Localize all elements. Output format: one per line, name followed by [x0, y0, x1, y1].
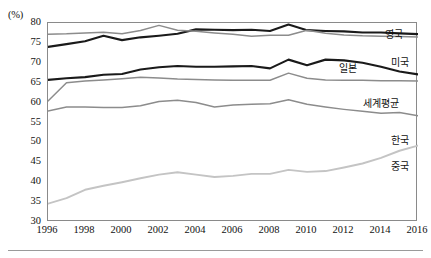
y-axis-tick-label: 35 — [31, 196, 42, 207]
plot-area — [47, 22, 417, 221]
series-label-usa: 미국 — [391, 58, 409, 68]
x-axis-tick-label: 2014 — [370, 225, 391, 236]
x-axis-tick-label: 2016 — [407, 225, 428, 236]
y-axis-unit-label: (%) — [8, 9, 23, 20]
x-axis-tick-label: 2002 — [148, 225, 169, 236]
y-axis-tick-label: 80 — [31, 17, 42, 28]
series-label-china: 중국 — [391, 162, 409, 172]
x-axis-tick-label: 2006 — [222, 225, 243, 236]
series-label-korea: 한국 — [391, 136, 409, 146]
x-axis-tick-label: 2012 — [333, 225, 354, 236]
x-axis-tick-label: 2004 — [185, 225, 206, 236]
x-axis-tick-label: 1998 — [74, 225, 95, 236]
y-axis: 3035404550556065707580 — [0, 22, 45, 221]
y-axis-tick-label: 75 — [31, 37, 42, 48]
employment-rate-line-chart: (%) 3035404550556065707580 1996199820002… — [0, 0, 431, 258]
x-axis-tick-label: 2010 — [296, 225, 317, 236]
y-axis-tick-label: 50 — [31, 136, 42, 147]
x-axis-tick-label: 2008 — [259, 225, 280, 236]
bottom-divider — [8, 250, 423, 251]
y-axis-tick-label: 65 — [31, 76, 42, 87]
series-line — [48, 60, 418, 80]
y-axis-tick-label: 40 — [31, 176, 42, 187]
x-axis-tick-label: 2000 — [111, 225, 132, 236]
series-line — [48, 73, 418, 101]
x-axis-tick-label: 1996 — [37, 225, 58, 236]
plot-svg — [48, 23, 418, 222]
y-axis-tick-label: 70 — [31, 57, 42, 68]
y-axis-tick-label: 45 — [31, 156, 42, 167]
x-axis: 1996199820002002200420062008201020122014… — [47, 225, 417, 243]
y-axis-tick-label: 60 — [31, 96, 42, 107]
series-label-world: 세계평균 — [363, 99, 399, 109]
series-label-uk: 영국 — [385, 30, 403, 40]
series-line — [48, 146, 418, 204]
y-axis-tick-label: 55 — [31, 116, 42, 127]
series-label-japan: 일본 — [339, 64, 357, 74]
